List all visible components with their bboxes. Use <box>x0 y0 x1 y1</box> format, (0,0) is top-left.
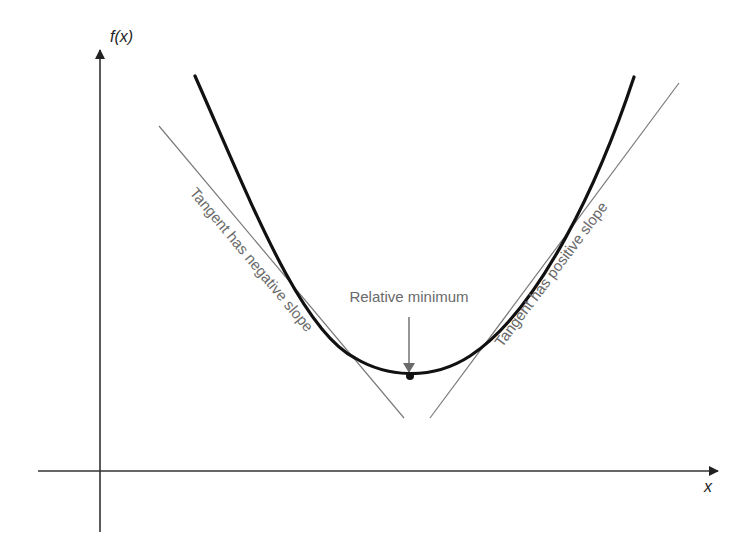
diagram-canvas: f(x) x Relative minimum Tangent has nega… <box>0 0 746 558</box>
right-tangent-line <box>430 83 679 418</box>
right-tangent-label: Tangent has positive slope <box>491 198 611 349</box>
minimum-point <box>406 372 414 380</box>
function-curve <box>195 76 634 374</box>
x-axis-label: x <box>703 478 713 495</box>
y-axis-label: f(x) <box>110 28 133 45</box>
left-tangent-line <box>159 126 404 418</box>
relative-minimum-label: Relative minimum <box>349 288 468 305</box>
